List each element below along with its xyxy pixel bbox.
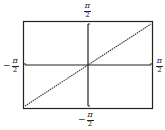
y-min-label: − π2 <box>78 111 94 128</box>
x-max-label: π2 <box>155 57 163 74</box>
x-min-label: − π2 <box>3 57 19 74</box>
y-max-label: π2 <box>83 2 91 19</box>
